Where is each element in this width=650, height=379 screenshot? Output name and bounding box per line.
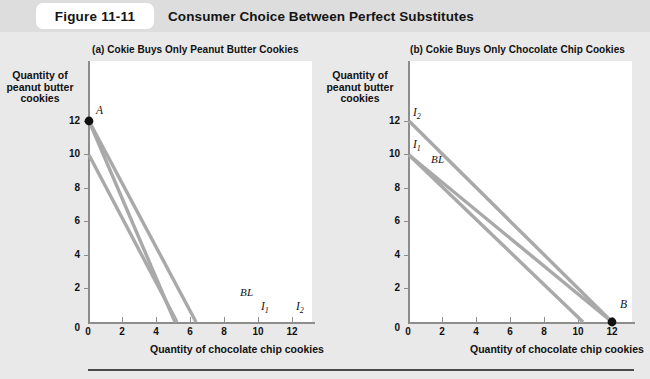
panel-b-plot-area xyxy=(408,61,632,322)
panel-b-ytick-12 xyxy=(404,121,409,122)
panel-a-xtick-2 xyxy=(122,317,123,322)
panel-a-ytick-12 xyxy=(84,121,89,122)
panel-a-y-axis-title: Quantity of peanut butter cookies xyxy=(0,70,86,105)
panel-a-ytick-10 xyxy=(84,154,89,155)
panel-b-curve-i1-subscript: 1 xyxy=(417,144,421,153)
panel-b-curve-i2-label: I2 xyxy=(413,106,421,118)
panel-a-budget-line-label: BL xyxy=(240,286,253,298)
panel-a-ytick-8 xyxy=(84,188,89,189)
panel-a-xtick-8 xyxy=(224,317,225,322)
panel-a-xtick-4 xyxy=(156,317,157,322)
panel-b-ylabel-8: 8 xyxy=(378,182,400,193)
panel-a-xtick-6 xyxy=(190,317,191,322)
panel-b-xtick-4 xyxy=(476,317,477,322)
panel-b-xlabel-2: 2 xyxy=(431,326,453,337)
panel-b-xtick-10 xyxy=(578,317,579,322)
panel-a-ytick-6 xyxy=(84,221,89,222)
panel-b-ytick-10 xyxy=(404,154,409,155)
panel-b-xtick-12 xyxy=(612,317,613,322)
panel-a-ylabel-4: 4 xyxy=(58,249,80,260)
panel-a-xlabel-0: 0 xyxy=(77,326,99,337)
panel-b-xlabel-10: 10 xyxy=(567,326,589,337)
figure-number: Figure 11-11 xyxy=(36,3,154,29)
panel-a-ylabel-2: 2 xyxy=(58,282,80,293)
panel-b-xlabel-8: 8 xyxy=(533,326,555,337)
panel-a-xlabel-10: 10 xyxy=(247,326,269,337)
panel-b-xlabel-6: 6 xyxy=(499,326,521,337)
panel-a-plot-area xyxy=(88,61,312,322)
panel-a-ylabel-6: 6 xyxy=(58,215,80,226)
panel-b-xtick-6 xyxy=(510,317,511,322)
panel-b-point-B-label: B xyxy=(620,298,627,310)
panel-a-xlabel-6: 6 xyxy=(179,326,201,337)
panel-a-xtick-10 xyxy=(258,317,259,322)
panel-b-ytick-8 xyxy=(404,188,409,189)
panel-b-xtick-8 xyxy=(544,317,545,322)
panel-b-ylabel-6: 6 xyxy=(378,215,400,226)
panel-a-x-axis-title: Quantity of chocolate chip cookies xyxy=(150,343,324,355)
panel-b-ytick-6 xyxy=(404,221,409,222)
panel-b-subtitle: (b) Cokie Buys Only Chocolate Chip Cooki… xyxy=(410,44,625,55)
panel-b-ylabel-4: 4 xyxy=(378,249,400,260)
panel-a-ylabel-8: 8 xyxy=(58,182,80,193)
panel-a-xlabel-4: 4 xyxy=(145,326,167,337)
panel-a-curve-i1-subscript: 1 xyxy=(265,306,269,315)
panel-a-curve-i2-subscript: 2 xyxy=(300,306,304,315)
panel-b-x-axis xyxy=(408,322,635,324)
panel-b-xlabel-4: 4 xyxy=(465,326,487,337)
panel-a-ytick-4 xyxy=(84,255,89,256)
panel-b-xlabel-0: 0 xyxy=(397,326,419,337)
panel-b-ytick-2 xyxy=(404,288,409,289)
panel-a-xlabel-8: 8 xyxy=(213,326,235,337)
figure-bottom-rule xyxy=(88,369,634,371)
panel-a-curve-i2-label: I2 xyxy=(296,300,304,312)
panel-b-ytick-4 xyxy=(404,255,409,256)
panel-a-ytick-2 xyxy=(84,288,89,289)
panel-b-ylabel-10: 10 xyxy=(378,148,400,159)
panel-a-xlabel-2: 2 xyxy=(111,326,133,337)
panel-b-y-axis-title: Quantity of peanut butter cookies xyxy=(314,70,406,105)
panel-a-subtitle: (a) Cokie Buys Only Peanut Butter Cookie… xyxy=(92,44,299,55)
figure-title: Consumer Choice Between Perfect Substitu… xyxy=(168,3,474,29)
panel-b-ylabel-2: 2 xyxy=(378,282,400,293)
panel-a-xlabel-12: 12 xyxy=(281,326,303,337)
panel-a-point-A-label: A xyxy=(96,104,103,116)
panel-b-xlabel-12: 12 xyxy=(601,326,623,337)
panel-b-x-axis-title: Quantity of chocolate chip cookies xyxy=(470,343,644,355)
panel-a-xtick-12 xyxy=(292,317,293,322)
panel-b-curve-i2-subscript: 2 xyxy=(417,112,421,121)
figure-root: Figure 11-11 Consumer Choice Between Per… xyxy=(0,0,650,379)
panel-a-ylabel-12: 12 xyxy=(58,115,80,126)
panel-b-xtick-2 xyxy=(442,317,443,322)
panel-a-y-axis xyxy=(88,61,90,323)
panel-b-budget-line-label: BL xyxy=(431,153,444,165)
panel-b-ylabel-12: 12 xyxy=(378,115,400,126)
panel-a-curve-i1-label: I1 xyxy=(261,300,269,312)
panel-a-ylabel-10: 10 xyxy=(58,148,80,159)
panel-b-curve-i1-label: I1 xyxy=(413,138,421,150)
panel-a-x-axis xyxy=(88,322,315,324)
panel-b-y-axis xyxy=(408,61,410,323)
